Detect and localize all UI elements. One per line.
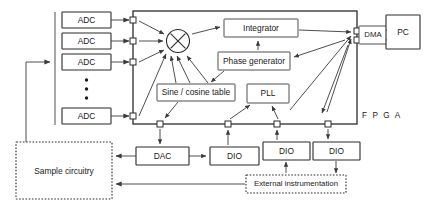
adc-ellipsis <box>85 78 88 99</box>
wire-port3-to-multiplier <box>139 50 164 62</box>
dio-block-3-label: DIO <box>329 146 344 156</box>
fpga-port-left-1 <box>130 17 136 23</box>
diagram-svg: F P G A ADC ADC ADC ADC <box>0 0 424 207</box>
pll-block[interactable]: PLL <box>247 84 289 103</box>
dio-block-1[interactable]: DIO <box>210 147 259 165</box>
external-instrumentation-block[interactable]: External instrumentation <box>246 175 346 193</box>
sample-circuitry-label: Sample circuitry <box>34 166 94 176</box>
wire-sincos-to-multiplier-a <box>171 56 176 83</box>
fpga-port-bottom-3 <box>274 121 280 127</box>
integrator-label: Integrator <box>243 23 279 33</box>
wire-sincos-to-multiplier-c <box>187 56 208 83</box>
phase-generator-label: Phase generator <box>223 56 285 66</box>
wire-sincos-to-port-bottom1 <box>165 102 178 118</box>
fpga-port-bottom-2 <box>225 121 231 127</box>
dma-block[interactable]: DMA <box>359 26 387 44</box>
phase-generator-block[interactable]: Phase generator <box>218 52 290 70</box>
integrator-block[interactable]: Integrator <box>224 19 298 37</box>
wire-port-bottom2-to-pll <box>230 105 250 119</box>
wire-sincos-to-multiplier-b <box>177 56 190 83</box>
adc-block-4[interactable]: ADC <box>62 108 111 124</box>
fpga-label: F P G A <box>362 111 402 120</box>
fpga-port-left-2 <box>130 38 136 44</box>
fpga-port-left-4 <box>130 113 136 119</box>
adc-block-1-label: ADC <box>78 15 96 25</box>
adc-block-4-label: ADC <box>78 111 96 121</box>
fpga-port-bottom-4 <box>325 121 331 127</box>
dio-block-3[interactable]: DIO <box>313 142 360 160</box>
wire-phasegen-to-sincos <box>211 71 224 82</box>
sample-circuitry-block[interactable]: Sample circuitry <box>16 142 112 199</box>
adc-block-2[interactable]: ADC <box>62 33 111 49</box>
adc-block-3[interactable]: ADC <box>62 54 111 70</box>
wire-integrator-to-dma <box>299 30 351 32</box>
wire-dma-to-phase-generator <box>294 40 345 57</box>
pc-block[interactable]: PC <box>386 15 420 49</box>
dio-block-2[interactable]: DIO <box>263 142 310 160</box>
wire-port1-to-multiplier <box>139 21 164 34</box>
wire-multiplier-to-integrator <box>192 27 220 34</box>
wire-pll-area-to-dma <box>290 36 351 110</box>
wire-port-bottom3-to-pll <box>272 106 278 119</box>
sine-cosine-table-block[interactable]: Sine / cosine table <box>157 84 235 101</box>
pc-label: PC <box>397 27 409 37</box>
fpga-port-bottom-1 <box>157 121 163 127</box>
adc-block-2-label: ADC <box>78 36 96 46</box>
pll-label: PLL <box>261 88 276 98</box>
block-diagram-canvas: F P G A ADC ADC ADC ADC <box>0 0 424 207</box>
dac-label: DAC <box>154 151 172 161</box>
external-instrumentation-label: External instrumentation <box>254 179 338 188</box>
dio-block-1-label: DIO <box>227 151 242 161</box>
sine-cosine-table-label: Sine / cosine table <box>162 87 231 97</box>
multiplier-block[interactable] <box>167 30 190 53</box>
dac-block[interactable]: DAC <box>136 147 189 165</box>
adc-block-1[interactable]: ADC <box>62 12 111 28</box>
adc-block-3-label: ADC <box>78 57 96 67</box>
fpga-port-left-3 <box>130 59 136 65</box>
dio-block-2-label: DIO <box>279 146 294 156</box>
dma-label: DMA <box>364 30 382 39</box>
